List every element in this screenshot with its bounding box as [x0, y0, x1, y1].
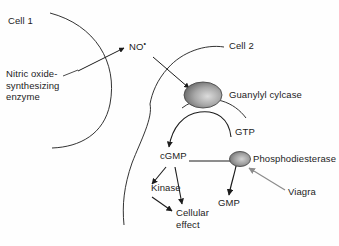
cgmp-label: cGMP — [160, 150, 187, 162]
nitric-oxide-synthesizing-enzyme-label: Nitric oxide- synthesizing enzyme — [6, 68, 59, 103]
diagram-vector-layer — [0, 0, 339, 246]
guanylyl-cyclase-ellipse — [184, 82, 222, 108]
no-radical-label: NO• — [129, 41, 146, 53]
arrow-cgmp-to-gmp — [229, 166, 236, 195]
cell2-label: Cell 2 — [229, 40, 254, 52]
arrow-viagra-inhibits-phosphodiesterase — [249, 168, 285, 190]
arrow-kinase-to-cellular-effect — [152, 197, 172, 211]
gtp-label: GTP — [235, 126, 255, 138]
arrow-gtp-to-cgmp — [169, 112, 231, 147]
enzyme-leader-line — [63, 70, 78, 76]
no-radical-text: NO — [129, 41, 143, 52]
phosphodiesterase-ellipse — [230, 152, 251, 167]
arrow-enzyme-to-no — [78, 48, 124, 71]
viagra-label: Viagra — [288, 186, 316, 198]
radical-dot-icon: • — [143, 40, 146, 47]
cell2-membrane-curve-lower — [123, 104, 150, 225]
kinase-label: Kinase — [151, 182, 181, 194]
gmp-label: GMP — [218, 197, 240, 209]
guanylyl-cyclase-label: Guanylyl cylcase — [229, 89, 302, 101]
cellular-effect-label: Cellular effect — [176, 207, 209, 230]
phosphodiesterase-label: Phosphodiesterase — [253, 153, 336, 165]
arrow-no-to-guanylyl-cyclase — [153, 57, 189, 88]
nitric-oxide-pathway-diagram: Cell 1 Nitric oxide- synthesizing enzyme… — [0, 0, 339, 246]
cell1-label: Cell 1 — [8, 15, 33, 27]
